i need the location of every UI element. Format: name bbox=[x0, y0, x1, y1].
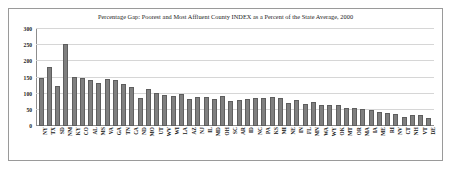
x-label-slot: MS bbox=[95, 126, 103, 158]
bar-ma[interactable] bbox=[360, 109, 365, 126]
bar-slot bbox=[153, 29, 161, 126]
bar-ut[interactable] bbox=[154, 93, 159, 126]
x-label-slot: ND bbox=[136, 126, 144, 158]
bar-de[interactable] bbox=[426, 118, 431, 126]
bar-nj[interactable] bbox=[195, 97, 200, 126]
bar-ct[interactable] bbox=[402, 117, 407, 126]
bar-ny[interactable] bbox=[39, 78, 44, 126]
bar-mt[interactable] bbox=[344, 108, 349, 126]
bar-tn[interactable] bbox=[121, 84, 126, 126]
bar-or[interactable] bbox=[352, 108, 357, 126]
bar-pa[interactable] bbox=[261, 98, 266, 126]
x-label-slot: MO bbox=[144, 126, 152, 158]
bar-la[interactable] bbox=[179, 94, 184, 126]
x-label-slot: CO bbox=[78, 126, 86, 158]
bar-ky[interactable] bbox=[72, 77, 77, 126]
bar-ok[interactable] bbox=[336, 105, 341, 126]
bar-slot bbox=[276, 29, 284, 126]
bar-ar[interactable] bbox=[237, 100, 242, 127]
x-label-slot: VT bbox=[417, 126, 425, 158]
bar-nv[interactable] bbox=[393, 114, 398, 126]
x-label-slot: NM bbox=[62, 126, 70, 158]
x-label-slot: SD bbox=[54, 126, 62, 158]
x-label-slot: NC bbox=[252, 126, 260, 158]
bar-al[interactable] bbox=[88, 80, 93, 126]
bar-ia[interactable] bbox=[369, 110, 374, 126]
x-label-slot: NY bbox=[37, 126, 45, 158]
x-label-slot: NV bbox=[392, 126, 400, 158]
bar-mn[interactable] bbox=[311, 102, 316, 126]
bar-va[interactable] bbox=[105, 79, 110, 126]
y-tick-label: 100 bbox=[24, 91, 32, 97]
x-label-slot: WY bbox=[326, 126, 334, 158]
x-label-slot: MI bbox=[276, 126, 284, 158]
bar-md[interactable] bbox=[212, 99, 217, 126]
x-label-slot: RI bbox=[384, 126, 392, 158]
x-label-slot: MT bbox=[342, 126, 350, 158]
bar-slot bbox=[45, 29, 53, 126]
x-label-slot: IN bbox=[293, 126, 301, 158]
x-label-slot: KY bbox=[70, 126, 78, 158]
bar-ms[interactable] bbox=[96, 83, 101, 126]
bar-slot bbox=[268, 29, 276, 126]
x-label-slot: IL bbox=[202, 126, 210, 158]
bar-ne[interactable] bbox=[286, 103, 291, 126]
bar-tx[interactable] bbox=[47, 67, 52, 126]
x-label-slot: ME bbox=[375, 126, 383, 158]
bar-in[interactable] bbox=[294, 100, 299, 126]
bar-ga[interactable] bbox=[113, 80, 118, 126]
bar-mi[interactable] bbox=[278, 98, 283, 126]
bar-slot bbox=[309, 29, 317, 126]
bar-nh[interactable] bbox=[410, 115, 415, 126]
bar-co[interactable] bbox=[80, 78, 85, 127]
bar-slot bbox=[417, 29, 425, 126]
bar-nc[interactable] bbox=[253, 98, 258, 126]
y-tick-label: 0 bbox=[29, 123, 32, 129]
bar-nm[interactable] bbox=[63, 44, 68, 126]
bar-ri[interactable] bbox=[385, 113, 390, 126]
bar-slot bbox=[37, 29, 45, 126]
x-label-slot: MN bbox=[309, 126, 317, 158]
x-label-slot: OR bbox=[351, 126, 359, 158]
bar-sd[interactable] bbox=[55, 86, 60, 126]
bar-slot bbox=[186, 29, 194, 126]
bar-nd[interactable] bbox=[138, 98, 143, 126]
bar-ca[interactable] bbox=[129, 87, 134, 126]
x-label-slot: OH bbox=[219, 126, 227, 158]
x-label-slot: IA bbox=[367, 126, 375, 158]
bar-il[interactable] bbox=[204, 97, 209, 126]
bar-slot bbox=[219, 29, 227, 126]
bar-wa[interactable] bbox=[319, 105, 324, 126]
x-label-slot: NJ bbox=[194, 126, 202, 158]
bar-slot bbox=[111, 29, 119, 126]
bar-az[interactable] bbox=[187, 99, 192, 126]
bar-wv[interactable] bbox=[162, 95, 167, 126]
bar-slot bbox=[235, 29, 243, 126]
bar-slot bbox=[351, 29, 359, 126]
bar-me[interactable] bbox=[377, 112, 382, 126]
x-label-slot: VA bbox=[103, 126, 111, 158]
bar-mo[interactable] bbox=[146, 89, 151, 126]
bar-sc[interactable] bbox=[228, 101, 233, 126]
x-label-slot: AR bbox=[235, 126, 243, 158]
bar-slot bbox=[136, 29, 144, 126]
x-label-slot: OK bbox=[334, 126, 342, 158]
bar-slot bbox=[227, 29, 235, 126]
bar-wi[interactable] bbox=[171, 96, 176, 126]
x-label-slot: GA bbox=[111, 126, 119, 158]
x-label-slot: UT bbox=[153, 126, 161, 158]
x-label-slot: WA bbox=[318, 126, 326, 158]
bar-fl[interactable] bbox=[303, 104, 308, 126]
x-label-slot: WI bbox=[169, 126, 177, 158]
bar-slot bbox=[375, 29, 383, 126]
bar-wy[interactable] bbox=[327, 105, 332, 126]
bar-slot bbox=[342, 29, 350, 126]
bar-vt[interactable] bbox=[418, 115, 423, 126]
bar-slot bbox=[62, 29, 70, 126]
bar-id[interactable] bbox=[245, 99, 250, 126]
bar-slot bbox=[87, 29, 95, 126]
bar-ks[interactable] bbox=[270, 97, 275, 126]
bar-slot bbox=[202, 29, 210, 126]
bar-slot bbox=[161, 29, 169, 126]
bar-oh[interactable] bbox=[220, 96, 225, 126]
